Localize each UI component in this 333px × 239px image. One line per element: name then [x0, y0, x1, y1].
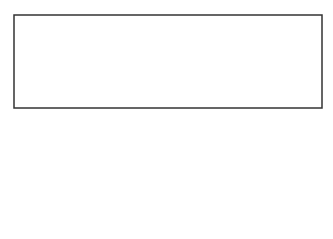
- diagram-canvas: [0, 0, 333, 239]
- frame-top: [14, 15, 322, 108]
